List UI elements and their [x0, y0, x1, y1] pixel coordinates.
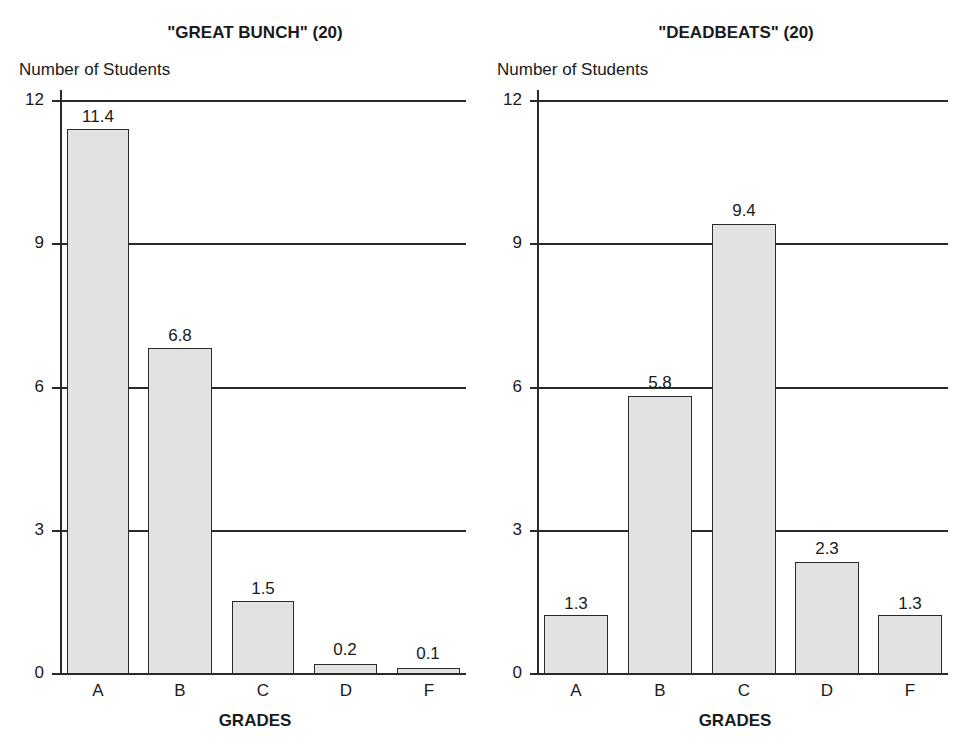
bar-a [544, 615, 608, 673]
value-label-a: 1.3 [541, 594, 611, 614]
x-tick-b: B [630, 681, 690, 701]
x-axis-label: GRADES [655, 711, 815, 731]
bar-f [878, 615, 942, 673]
bar-c [712, 224, 776, 673]
chart-deadbeats: "DEADBEATS" (20) Number of Students 12 9… [0, 0, 482, 752]
y-axis-label: Number of Students [497, 60, 648, 80]
y-axis-line [537, 90, 539, 674]
y-tick-9: 9 [492, 233, 522, 253]
bar-d [795, 562, 859, 673]
y-tick-0: 0 [492, 663, 522, 683]
x-tick-f: F [880, 681, 940, 701]
bar-b [628, 396, 692, 673]
x-axis-baseline [530, 673, 948, 675]
value-label-b: 5.8 [625, 373, 695, 393]
x-tick-a: A [546, 681, 606, 701]
y-tick-6: 6 [492, 377, 522, 397]
y-tick-3: 3 [492, 520, 522, 540]
gridline-12 [530, 100, 948, 102]
x-tick-c: C [714, 681, 774, 701]
value-label-c: 9.4 [709, 201, 779, 221]
value-label-f: 1.3 [875, 594, 945, 614]
value-label-d: 2.3 [792, 539, 862, 559]
chart-title: "DEADBEATS" (20) [626, 23, 846, 43]
y-tick-12: 12 [492, 90, 522, 110]
x-tick-d: D [797, 681, 857, 701]
